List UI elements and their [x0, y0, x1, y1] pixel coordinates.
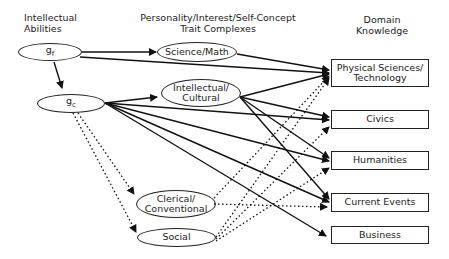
node-business: Business	[331, 226, 429, 244]
node-gf-label: gf	[46, 45, 55, 59]
node-gf: gf	[18, 43, 82, 61]
node-humanities: Humanities	[331, 151, 429, 170]
node-clerical-conventional: Clerical/ Conventional	[136, 190, 216, 218]
header-trait-complexes: Personality/Interest/Self-Concept Trait …	[118, 12, 318, 34]
node-business-label: Business	[359, 230, 401, 241]
header-intellectual-abilities: Intellectual Abilities	[24, 12, 77, 34]
node-science-math-label: Science/Math	[165, 47, 229, 58]
diagram-edges	[0, 0, 449, 259]
node-civics: Civics	[331, 110, 429, 129]
node-social: Social	[137, 228, 216, 247]
node-current-events: Current Events	[331, 193, 429, 212]
node-physical-sciences-label: Physical Sciences/ Technology	[337, 63, 424, 84]
node-intellectual-cultural-label: Intellectual/ Cultural	[173, 83, 229, 104]
node-civics-label: Civics	[366, 114, 394, 125]
node-science-math: Science/Math	[157, 42, 237, 62]
node-current-events-label: Current Events	[345, 197, 416, 208]
node-gc-label: gc	[66, 96, 76, 110]
header-domain-knowledge: Domain Knowledge	[352, 14, 412, 36]
node-social-label: Social	[162, 232, 190, 243]
node-intellectual-cultural: Intellectual/ Cultural	[161, 79, 241, 107]
node-humanities-label: Humanities	[353, 155, 407, 166]
node-clerical-conventional-label: Clerical/ Conventional	[145, 194, 208, 215]
node-physical-sciences: Physical Sciences/ Technology	[331, 59, 429, 87]
node-gc: gc	[37, 94, 105, 113]
